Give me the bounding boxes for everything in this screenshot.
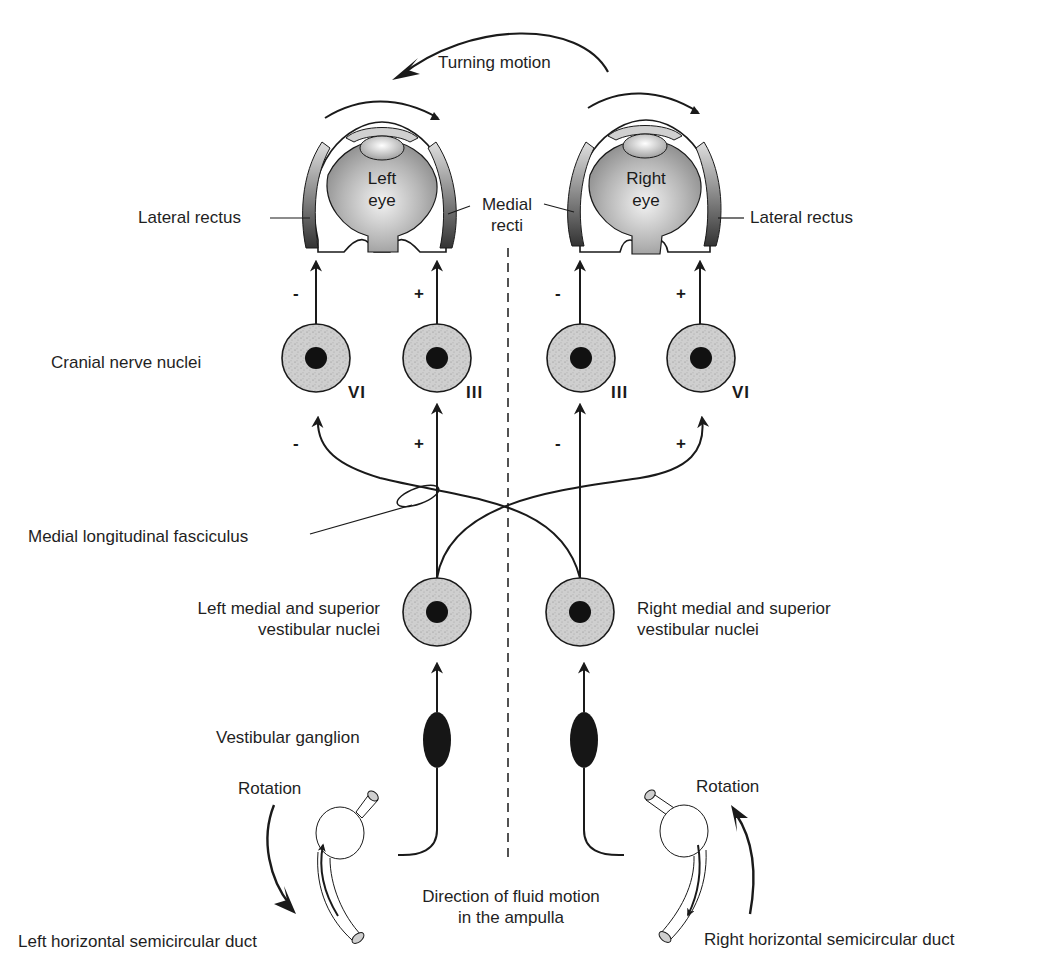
right-eye-label-line2: eye [614,190,678,212]
right-vestibular-line2: vestibular nuclei [637,619,831,640]
sign-upper-right-iii: - [555,284,561,304]
left-vestibular-line2: vestibular nuclei [140,619,380,640]
left-vestibular-ganglion [423,712,451,768]
sign-lower-left-iii: + [414,434,424,454]
right-duct-label: Right horizontal semicircular duct [704,929,954,950]
roman-left-vi: VI [348,383,366,403]
cranial-nerve-nuclei-label: Cranial nerve nuclei [51,352,201,373]
medial-recti-line2: recti [470,215,544,236]
vestibular-projections [318,405,703,578]
lateral-rectus-right-label: Lateral rectus [750,207,853,228]
right-vestibular-line1: Right medial and superior [637,598,831,619]
fluid-motion-line1: Direction of fluid motion [388,886,634,907]
lateral-rectus-left-label: Lateral rectus [138,207,241,228]
right-vestibular-ganglion [570,712,598,768]
sign-upper-right-vi: + [676,284,686,304]
sign-lower-left-vi: - [293,434,299,454]
left-eye-label-line1: Left [352,168,412,190]
left-semicircular-duct [316,789,380,945]
fluid-motion-label: Direction of fluid motion in the ampulla [388,886,634,928]
sign-upper-left-iii: + [414,284,424,304]
sign-lower-right-vi: + [676,434,686,454]
left-duct-label: Left horizontal semicircular duct [18,931,257,952]
diagram-canvas [0,0,1045,970]
left-eye-label-line2: eye [352,190,412,212]
mlf-leader [310,505,412,534]
mlf-label: Medial longitudinal fasciculus [28,526,248,547]
right-vestibular-nuclei-label: Right medial and superior vestibular nuc… [637,598,831,640]
roman-left-iii: III [466,383,483,403]
right-eye-label-line1: Right [614,168,678,190]
medial-recti-label: Medial recti [470,194,544,236]
sign-upper-left-vi: - [293,284,299,304]
roman-right-iii: III [611,383,628,403]
left-eye-label: Left eye [352,168,412,212]
left-vestibular-line1: Left medial and superior [140,598,380,619]
right-eye-label: Right eye [614,168,678,212]
vestibular-ganglion-label: Vestibular ganglion [216,727,360,748]
sign-lower-right-iii: - [555,434,561,454]
rotation-right-label: Rotation [696,776,759,797]
right-semicircular-duct [643,788,708,944]
turning-motion-label: Turning motion [438,52,551,73]
rotation-left-label: Rotation [238,778,301,799]
left-vestibular-nuclei-label: Left medial and superior vestibular nucl… [140,598,380,640]
roman-right-vi: VI [732,383,750,403]
medial-recti-line1: Medial [470,194,544,215]
left-rotation-arrow [267,805,296,914]
ganglion-pathway [398,664,624,855]
right-rotation-arrow [731,805,754,914]
fluid-motion-line2: in the ampulla [388,907,634,928]
